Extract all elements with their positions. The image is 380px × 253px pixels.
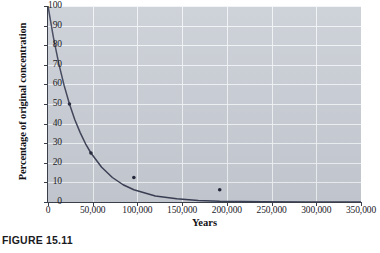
data-point-3 — [132, 176, 136, 180]
x-axis-title: Years — [48, 217, 361, 228]
x-tick-label-150000: 150,000 — [167, 205, 197, 215]
y-tick-mark-90 — [44, 26, 48, 27]
figure-container: 0102030405060708090100 050,000100,000150… — [0, 0, 380, 253]
x-tick-label-50000: 50,000 — [80, 205, 106, 215]
x-axis-line — [47, 202, 362, 203]
y-tick-mark-80 — [44, 45, 48, 46]
data-point-1 — [68, 102, 72, 106]
y-tick-mark-10 — [44, 182, 48, 183]
y-tick-mark-30 — [44, 143, 48, 144]
curve-path — [48, 6, 361, 202]
x-tick-label-300000: 300,000 — [301, 205, 331, 215]
x-tick-mark-250000 — [272, 202, 273, 206]
y-tick-mark-20 — [44, 163, 48, 164]
x-tick-label-100000: 100,000 — [122, 205, 152, 215]
y-tick-mark-60 — [44, 84, 48, 85]
x-tick-mark-350000 — [361, 202, 362, 206]
y-axis-title: Percentage of original concentration — [17, 2, 28, 202]
x-tick-mark-50000 — [93, 202, 94, 206]
x-tick-mark-150000 — [182, 202, 183, 206]
data-point-2 — [89, 151, 93, 155]
x-tick-label-350000: 350,000 — [346, 205, 376, 215]
y-tick-mark-40 — [44, 124, 48, 125]
y-tick-mark-100 — [44, 6, 48, 7]
y-tick-mark-50 — [44, 104, 48, 105]
data-point-4 — [218, 188, 222, 192]
x-tick-mark-100000 — [137, 202, 138, 206]
x-tick-mark-300000 — [316, 202, 317, 206]
figure-caption: FIGURE 15.11 — [2, 234, 73, 246]
chart-plot-area — [48, 6, 361, 202]
y-tick-mark-70 — [44, 65, 48, 66]
x-tick-mark-0 — [48, 202, 49, 206]
decay-curve — [48, 6, 361, 202]
x-tick-mark-200000 — [227, 202, 228, 206]
x-tick-label-200000: 200,000 — [212, 205, 242, 215]
x-tick-label-250000: 250,000 — [257, 205, 287, 215]
x-tick-label-0: 0 — [46, 205, 51, 215]
